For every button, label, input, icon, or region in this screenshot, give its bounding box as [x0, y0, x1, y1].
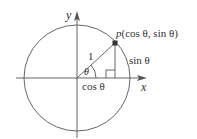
- point-label: p(cos θ, sin θ): [115, 27, 178, 40]
- unit-circle-diagram: y x p(cos θ, sin θ) 1 θ cos θ sin θ: [0, 0, 197, 139]
- point-coords: (cos θ, sin θ): [122, 27, 179, 40]
- angle-label: θ: [84, 66, 89, 77]
- cosine-label: cos θ: [82, 80, 105, 92]
- point-p: [113, 41, 118, 46]
- radius-label: 1: [88, 50, 94, 62]
- radius-line: [77, 43, 115, 78]
- sine-label: sin θ: [129, 54, 150, 66]
- angle-arc: [91, 65, 96, 78]
- x-axis-label: x: [140, 80, 147, 94]
- right-angle-marker: [106, 70, 115, 78]
- y-axis-label: y: [65, 8, 72, 22]
